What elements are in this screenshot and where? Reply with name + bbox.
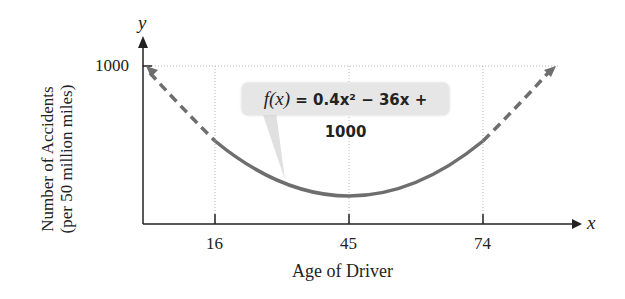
equation-fx: f(x) xyxy=(264,88,290,109)
y-axis-label-line1: Number of Accidents xyxy=(38,64,57,254)
y-axis-symbol: y xyxy=(138,12,146,34)
y-axis-arrow-icon xyxy=(138,36,148,48)
x-axis-symbol: x xyxy=(587,212,595,234)
x-axis-label: Age of Driver xyxy=(292,261,393,282)
x-tick-label-74: 74 xyxy=(474,234,491,254)
x-axis-arrow-icon xyxy=(572,219,582,229)
y-tick-label-1000: 1000 xyxy=(95,56,129,76)
chart-canvas xyxy=(0,0,625,299)
equation-callout: f(x) = 0.4x² − 36x + 1000 xyxy=(242,83,449,115)
y-axis-label-line2: (per 50 million miles) xyxy=(57,64,76,254)
y-axis-label: Number of Accidents (per 50 million mile… xyxy=(38,64,76,254)
x-tick-label-45: 45 xyxy=(340,234,357,254)
curve-dashed-left xyxy=(150,73,215,141)
callout-pointer xyxy=(262,112,285,180)
curve-left-arrow-icon xyxy=(146,66,158,77)
x-tick-label-16: 16 xyxy=(206,234,223,254)
curve-dashed-right xyxy=(483,73,548,141)
